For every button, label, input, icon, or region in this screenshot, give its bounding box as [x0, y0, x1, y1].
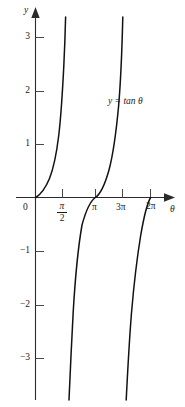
tangent-branch-1: [36, 17, 66, 198]
y-tick-label-neg3: −3: [12, 353, 30, 363]
y-axis-arrow-icon: [31, 7, 39, 18]
tangent-function-graph: y θ 0 3 2 1 −1 −2 −3 π 2 π 3π 2π y = tan…: [0, 0, 185, 407]
y-tick-label-2: 2: [16, 86, 30, 96]
fraction-denominator: 2: [55, 214, 69, 224]
x-tick-label-pi-over-2: π 2: [55, 202, 69, 224]
x-tick-label-2pi: 2π: [146, 202, 156, 212]
y-tick-label-1: 1: [16, 139, 30, 149]
x-tick-label-pi: π: [92, 203, 97, 213]
origin-label: 0: [23, 203, 28, 213]
y-tick-label-3: 3: [16, 32, 30, 42]
x-axis-arrow-icon: [164, 193, 175, 202]
y-tick-label-neg1: −1: [12, 246, 30, 256]
fraction-numerator: π: [55, 202, 69, 212]
curve-equation-label: y = tan θ: [108, 96, 143, 106]
tangent-branch-3: [126, 198, 150, 401]
y-tick-label-neg2: −2: [12, 300, 30, 310]
y-axis-label: y: [24, 6, 28, 16]
x-axis-label: θ: [170, 205, 175, 215]
x-tick-label-3pi: 3π: [116, 203, 126, 213]
